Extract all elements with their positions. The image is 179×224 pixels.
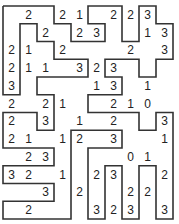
grid-cell[interactable] bbox=[54, 24, 71, 42]
grid-cell[interactable]: 2 bbox=[71, 130, 88, 148]
grid-cell[interactable] bbox=[54, 201, 71, 219]
grid-cell[interactable]: 2 bbox=[105, 113, 122, 131]
grid-cell[interactable]: 1 bbox=[20, 130, 37, 148]
grid-cell[interactable] bbox=[54, 59, 71, 77]
grid-cell[interactable] bbox=[37, 201, 54, 219]
grid-cell[interactable] bbox=[122, 166, 139, 184]
grid-cell[interactable]: 1 bbox=[54, 130, 71, 148]
grid-cell[interactable] bbox=[20, 77, 37, 95]
grid-cell[interactable] bbox=[37, 130, 54, 148]
grid-cell[interactable] bbox=[122, 113, 139, 131]
grid-cell[interactable]: 1 bbox=[139, 148, 156, 166]
grid-cell[interactable]: 3 bbox=[37, 148, 54, 166]
grid-cell[interactable]: 3 bbox=[122, 201, 139, 219]
grid-cell[interactable] bbox=[88, 95, 105, 113]
grid-cell[interactable]: 2 bbox=[20, 6, 37, 24]
grid-cell[interactable] bbox=[88, 113, 105, 131]
grid-cell[interactable]: 1 bbox=[88, 77, 105, 95]
grid-cell[interactable]: 3 bbox=[156, 24, 173, 42]
grid-cell[interactable] bbox=[156, 184, 173, 202]
grid-cell[interactable]: 2 bbox=[71, 24, 88, 42]
grid-cell[interactable] bbox=[20, 184, 37, 202]
grid-cell[interactable]: 1 bbox=[156, 130, 173, 148]
grid-cell[interactable]: 3 bbox=[105, 130, 122, 148]
grid-cell[interactable]: 2 bbox=[54, 6, 71, 24]
grid-cell[interactable] bbox=[71, 77, 88, 95]
grid-cell[interactable] bbox=[105, 24, 122, 42]
grid-cell[interactable] bbox=[156, 6, 173, 24]
grid-cell[interactable] bbox=[37, 166, 54, 184]
grid-cell[interactable]: 0 bbox=[122, 148, 139, 166]
grid-cell[interactable] bbox=[139, 130, 156, 148]
grid-cell[interactable] bbox=[122, 77, 139, 95]
grid-cell[interactable]: 1 bbox=[139, 77, 156, 95]
grid-cell[interactable]: 2 bbox=[71, 184, 88, 202]
grid-cell[interactable] bbox=[71, 201, 88, 219]
grid-cell[interactable] bbox=[37, 42, 54, 60]
grid-cell[interactable]: 3 bbox=[105, 77, 122, 95]
grid-cell[interactable] bbox=[139, 166, 156, 184]
grid-cell[interactable] bbox=[88, 42, 105, 60]
puzzle-board[interactable]: 2212232231321223211323313122121023123211… bbox=[0, 0, 179, 224]
grid-cell[interactable]: 2 bbox=[156, 166, 173, 184]
grid-cell[interactable]: 1 bbox=[122, 95, 139, 113]
grid-cell[interactable]: 3 bbox=[156, 201, 173, 219]
grid-cell[interactable] bbox=[88, 148, 105, 166]
grid-cell[interactable]: 3 bbox=[105, 59, 122, 77]
grid-cell[interactable]: 2 bbox=[54, 42, 71, 60]
grid-cell[interactable] bbox=[105, 148, 122, 166]
grid-cell[interactable]: 2 bbox=[3, 95, 20, 113]
grid-cell[interactable]: 2 bbox=[3, 42, 20, 60]
grid-cell[interactable]: 3 bbox=[156, 42, 173, 60]
grid-cell[interactable] bbox=[54, 148, 71, 166]
grid-cell[interactable] bbox=[20, 95, 37, 113]
grid-cell[interactable] bbox=[88, 184, 105, 202]
grid-cell[interactable] bbox=[3, 184, 20, 202]
grid-cell[interactable] bbox=[139, 59, 156, 77]
grid-cell[interactable]: 3 bbox=[105, 166, 122, 184]
grid-cell[interactable] bbox=[54, 113, 71, 131]
grid-cell[interactable] bbox=[3, 24, 20, 42]
grid-cell[interactable]: 1 bbox=[54, 166, 71, 184]
grid-cell[interactable] bbox=[37, 6, 54, 24]
grid-cell[interactable]: 3 bbox=[37, 184, 54, 202]
grid-cell[interactable]: 2 bbox=[105, 201, 122, 219]
grid-cell[interactable] bbox=[105, 184, 122, 202]
grid-cell[interactable] bbox=[54, 184, 71, 202]
grid-cell[interactable] bbox=[54, 77, 71, 95]
grid-cell[interactable]: 1 bbox=[20, 59, 37, 77]
grid-cell[interactable] bbox=[3, 6, 20, 24]
grid-cell[interactable]: 2 bbox=[37, 95, 54, 113]
grid-cell[interactable]: 2 bbox=[20, 166, 37, 184]
grid-cell[interactable] bbox=[71, 166, 88, 184]
grid-cell[interactable]: 2 bbox=[3, 130, 20, 148]
grid-cell[interactable] bbox=[71, 42, 88, 60]
grid-cell[interactable]: 3 bbox=[37, 113, 54, 131]
grid-cell[interactable]: 2 bbox=[122, 184, 139, 202]
grid-cell[interactable]: 1 bbox=[37, 59, 54, 77]
grid-cell[interactable] bbox=[20, 24, 37, 42]
grid-cell[interactable] bbox=[122, 24, 139, 42]
grid-cell[interactable]: 2 bbox=[105, 6, 122, 24]
grid-cell[interactable] bbox=[139, 113, 156, 131]
grid-cell[interactable]: 2 bbox=[88, 59, 105, 77]
grid-cell[interactable] bbox=[156, 148, 173, 166]
grid-cell[interactable]: 2 bbox=[3, 113, 20, 131]
grid-cell[interactable]: 2 bbox=[20, 201, 37, 219]
grid-cell[interactable] bbox=[139, 201, 156, 219]
grid-cell[interactable]: 3 bbox=[3, 77, 20, 95]
grid-cell[interactable] bbox=[156, 59, 173, 77]
grid-cell[interactable]: 2 bbox=[139, 184, 156, 202]
grid-cell[interactable]: 3 bbox=[3, 166, 20, 184]
grid-cell[interactable]: 1 bbox=[54, 95, 71, 113]
grid-cell[interactable] bbox=[122, 59, 139, 77]
grid-cell[interactable]: 1 bbox=[71, 6, 88, 24]
grid-cell[interactable] bbox=[20, 113, 37, 131]
grid-cell[interactable]: 2 bbox=[122, 42, 139, 60]
grid-cell[interactable] bbox=[37, 77, 54, 95]
grid-cell[interactable] bbox=[3, 148, 20, 166]
grid-cell[interactable]: 3 bbox=[88, 24, 105, 42]
grid-cell[interactable]: 1 bbox=[71, 113, 88, 131]
grid-cell[interactable]: 3 bbox=[88, 201, 105, 219]
grid-cell[interactable]: 2 bbox=[3, 59, 20, 77]
